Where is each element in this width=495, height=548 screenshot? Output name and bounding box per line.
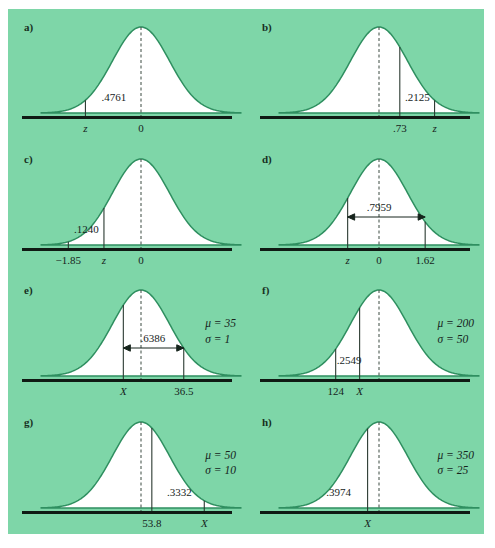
axis-tick-label: .73	[393, 122, 407, 134]
panel-letter: a)	[24, 21, 33, 33]
probability-label: .7959	[367, 201, 392, 213]
sigma-value: σ = 25	[437, 463, 474, 479]
sigma-value: σ = 10	[205, 463, 236, 479]
probability-label: .1240	[74, 223, 99, 235]
axis-tick-label: 36.5	[174, 385, 193, 397]
sigma-value: σ = 1	[205, 332, 236, 348]
axis-tick-label: X	[364, 517, 371, 529]
mu-value: μ = 50	[205, 448, 236, 464]
distribution-parameters: μ = 50σ = 10	[205, 448, 236, 479]
panel-letter: d)	[262, 153, 272, 165]
axis-tick-label: X	[201, 517, 208, 529]
mu-value: μ = 200	[437, 316, 474, 332]
axis-tick-label: z	[102, 254, 106, 266]
panel-g: g).333253.8Xμ = 50σ = 10	[8, 404, 246, 535]
axis-tick-label: 53.8	[142, 517, 161, 529]
panel-letter: h)	[262, 416, 272, 428]
panel-c: c).12400−1.85z	[8, 141, 246, 272]
axis-tick-label: X	[356, 385, 363, 397]
axis-tick-label: 1.62	[416, 254, 435, 266]
probability-label: .2125	[405, 91, 430, 103]
mu-value: μ = 350	[437, 448, 474, 464]
axis-tick-label: 0	[138, 254, 144, 266]
panel-letter: e)	[24, 284, 33, 296]
axis-tick-label: 0	[138, 122, 144, 134]
probability-label: .6386	[141, 332, 166, 344]
panel-f: f).2549124Xμ = 200σ = 50	[246, 272, 484, 403]
panel-letter: g)	[24, 416, 33, 428]
panel-h: h).3974Xμ = 350σ = 25	[246, 404, 484, 535]
mu-value: μ = 35	[205, 316, 236, 332]
panel-b: b).2125.73z	[246, 9, 484, 140]
distribution-parameters: μ = 350σ = 25	[437, 448, 474, 479]
probability-label: .4761	[102, 91, 127, 103]
normal-distribution-figure: a).47610zb).2125.73zc).12400−1.85zd).795…	[8, 9, 484, 534]
distribution-parameters: μ = 200σ = 50	[437, 316, 474, 347]
distribution-parameters: μ = 35σ = 1	[205, 316, 236, 347]
axis-tick-label: −1.85	[56, 254, 81, 266]
axis-tick-label: z	[432, 122, 436, 134]
panel-e: e).6386X36.5μ = 35σ = 1	[8, 272, 246, 403]
panel-letter: f)	[262, 284, 269, 296]
panel-a: a).47610z	[8, 9, 246, 140]
sigma-value: σ = 50	[437, 332, 474, 348]
axis-tick-label: 124	[327, 385, 344, 397]
axis-tick-label: 0	[376, 254, 382, 266]
probability-label: .2549	[337, 354, 362, 366]
axis-tick-label: z	[346, 254, 350, 266]
panel-letter: b)	[262, 21, 272, 33]
probability-label: .3332	[167, 486, 192, 498]
panel-d: d).79590z1.62	[246, 141, 484, 272]
probability-label: .3974	[326, 486, 351, 498]
axis-tick-label: X	[120, 385, 127, 397]
panel-letter: c)	[24, 153, 33, 165]
axis-tick-label: z	[83, 122, 87, 134]
